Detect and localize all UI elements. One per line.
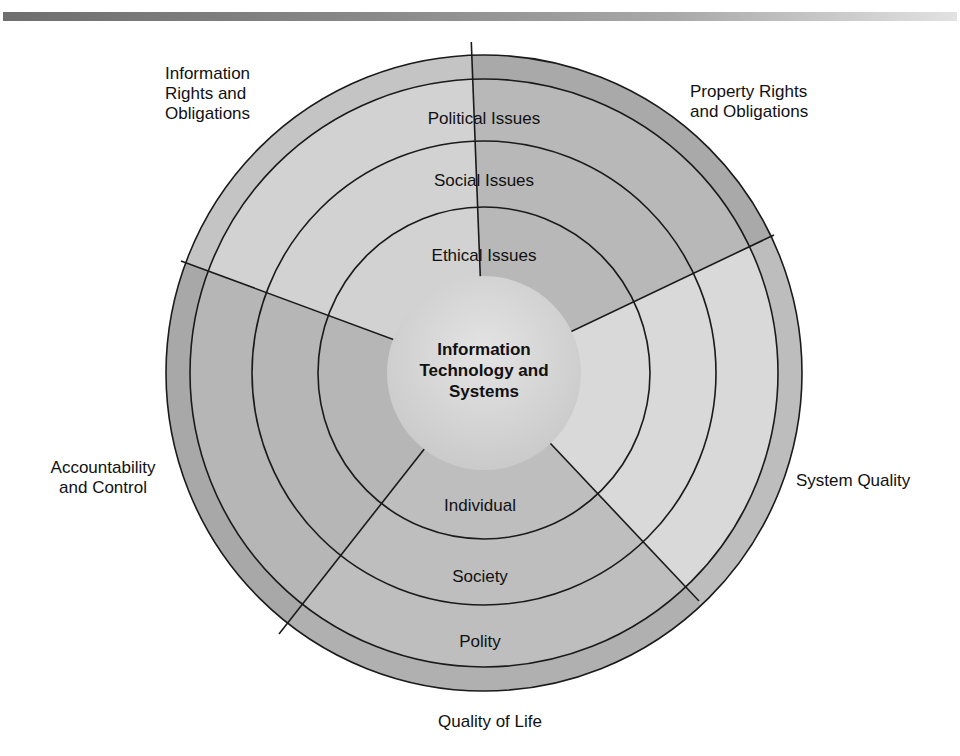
dimension-property-rights: Property Rights and Obligations <box>690 82 808 122</box>
ring-label-polity: Polity <box>380 632 580 652</box>
ring-label-individual: Individual <box>380 496 580 516</box>
ring-label-society: Society <box>380 567 580 587</box>
ring-label-social: Social Issues <box>364 171 604 191</box>
center-label: Information Technology and Systems <box>384 339 584 402</box>
dimension-system-quality: System Quality <box>796 471 910 491</box>
ring-label-ethical: Ethical Issues <box>364 246 604 266</box>
ring-label-political: Political Issues <box>364 109 604 129</box>
dimension-accountability: Accountability and Control <box>28 458 178 498</box>
dimension-quality-of-life: Quality of Life <box>400 712 580 732</box>
dimension-information-rights: Information Rights and Obligations <box>165 64 250 124</box>
